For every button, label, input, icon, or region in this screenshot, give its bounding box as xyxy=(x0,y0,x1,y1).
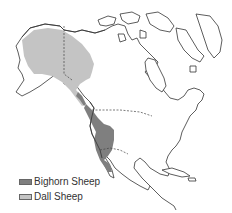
arctic-island-5 xyxy=(140,30,146,38)
arctic-island-7 xyxy=(190,66,196,72)
arctic-island-2 xyxy=(120,12,140,24)
legend-label-dall: Dall Sheep xyxy=(34,191,83,202)
central-america xyxy=(150,186,176,210)
legend: Bighorn Sheep Dall Sheep xyxy=(19,174,100,204)
bighorn-swatch-icon xyxy=(19,179,32,185)
hispaniola xyxy=(188,178,196,181)
dall-swatch-icon xyxy=(19,194,32,200)
arctic-island-3 xyxy=(146,12,174,32)
arctic-island-1 xyxy=(98,16,116,26)
legend-label-bighorn: Bighorn Sheep xyxy=(34,176,100,187)
arctic-island-4 xyxy=(176,28,204,62)
legend-item-bighorn: Bighorn Sheep xyxy=(19,174,100,189)
legend-item-dall: Dall Sheep xyxy=(19,189,100,204)
